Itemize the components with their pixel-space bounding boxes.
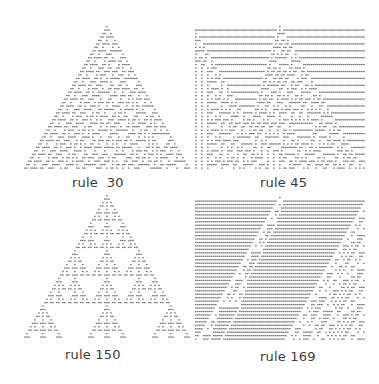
panel-rule-150 — [22, 194, 192, 342]
panel-rule-45 — [195, 25, 365, 173]
label-rule-45: rule 45 — [260, 175, 307, 190]
panel-rule-30 — [22, 25, 192, 173]
ca-pattern-rule-150 — [22, 194, 192, 342]
panel-rule-169 — [195, 196, 365, 344]
ca-pattern-rule-45 — [195, 25, 365, 173]
ca-pattern-rule-30 — [22, 25, 192, 173]
label-rule-150: rule 150 — [65, 347, 121, 362]
ca-pattern-rule-169 — [195, 196, 365, 344]
label-rule-30: rule 30 — [72, 175, 124, 190]
label-rule-169: rule 169 — [260, 349, 316, 364]
